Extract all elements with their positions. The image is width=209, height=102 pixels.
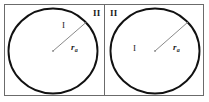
left-panel-radius-label: ra (71, 43, 78, 52)
right-panel-radius-label: ra (173, 43, 180, 52)
left-radius-subscript: a (75, 47, 78, 53)
right-panel-inner-region-label: I (133, 44, 136, 53)
left-panel-inner-region-label: I (62, 21, 65, 30)
right-radius-subscript: a (177, 47, 180, 53)
figure-container: II I ra II I ra (0, 0, 209, 102)
left-panel-outer-region-label: II (93, 9, 100, 18)
right-panel-center-dot (154, 50, 156, 52)
right-radius-variable: r (173, 42, 177, 52)
right-panel-outer-region-label: II (110, 9, 117, 18)
left-panel-center-dot (52, 50, 54, 52)
left-radius-variable: r (71, 42, 75, 52)
